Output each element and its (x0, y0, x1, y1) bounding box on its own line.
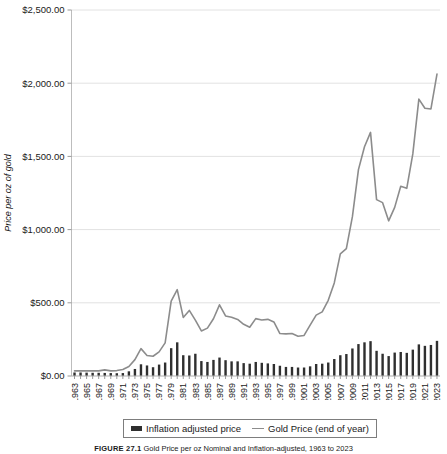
x-tick-label-2011: 2011 (360, 383, 370, 400)
bar-2003 (315, 364, 317, 376)
bar-2004 (321, 364, 323, 376)
bar-1982 (188, 356, 190, 377)
bar-2010 (357, 344, 359, 376)
bar-2012 (369, 341, 371, 376)
y-tick-label-2500: $2,500.00 (22, 4, 64, 15)
gold-price-chart-svg: $0.00$500.00$1,000.00$1,500.00$2,000.00$… (0, 0, 447, 400)
x-tick-label-2015: 2015 (384, 383, 394, 400)
bar-series-group (73, 341, 438, 376)
gridlines-group (72, 10, 441, 376)
x-tick-label-1967: 1967 (94, 383, 104, 400)
x-tick-label-1991: 1991 (239, 383, 249, 400)
bar-1983 (194, 354, 196, 376)
figure-caption-label: FIGURE 27.1 (94, 444, 141, 453)
x-tick-label-2007: 2007 (336, 383, 346, 400)
x-tick-label-2013: 2013 (372, 383, 382, 400)
y-axis-group: $0.00$500.00$1,000.00$1,500.00$2,000.00$… (22, 4, 71, 381)
legend-bar-swatch-icon (131, 426, 142, 431)
bar-1976 (152, 367, 154, 376)
gold-price-line (75, 74, 437, 371)
figure-container: $0.00$500.00$1,000.00$1,500.00$2,000.00$… (0, 0, 447, 454)
bar-1974 (140, 364, 142, 376)
bar-2015 (387, 356, 389, 376)
bar-2014 (381, 354, 383, 376)
x-tick-label-2023: 2023 (432, 383, 442, 400)
bar-2000 (297, 368, 299, 376)
figure-caption: FIGURE 27.1 Gold Price per oz Nominal an… (0, 444, 447, 454)
bar-2018 (406, 353, 408, 376)
bar-1995 (267, 363, 269, 376)
legend-line-swatch-icon (252, 428, 264, 429)
y-tick-label-2000: $2,000.00 (22, 78, 64, 89)
bar-1984 (200, 361, 202, 376)
bar-2023 (436, 341, 438, 376)
bar-1987 (218, 358, 220, 376)
x-tick-label-2019: 2019 (408, 383, 418, 400)
bar-1973 (134, 369, 136, 376)
legend-item-gold-price: Gold Price (end of year) (252, 424, 369, 434)
bar-1972 (128, 371, 130, 376)
bar-2002 (309, 366, 311, 376)
x-tick-label-1981: 1981 (178, 383, 188, 400)
bar-2005 (327, 363, 329, 376)
x-tick-label-1977: 1977 (154, 383, 164, 400)
bar-1989 (230, 361, 232, 376)
y-tick-label-500: $500.00 (30, 297, 64, 308)
bar-2009 (351, 348, 353, 376)
legend-item-inflation-adjusted-price: Inflation adjusted price (131, 424, 241, 434)
legend-label-inflation-adjusted-price: Inflation adjusted price (146, 424, 241, 434)
bar-2019 (412, 350, 414, 376)
bar-2007 (339, 355, 341, 376)
bar-2006 (333, 359, 335, 376)
y-tick-label-1000: $1,000.00 (22, 224, 64, 235)
x-tick-label-2003: 2003 (311, 383, 321, 400)
x-tick-label-1993: 1993 (251, 383, 261, 400)
bar-1990 (236, 361, 238, 376)
bar-2001 (303, 368, 305, 376)
x-tick-label-2001: 2001 (299, 383, 309, 400)
x-tick-label-2017: 2017 (396, 383, 406, 400)
bar-1999 (291, 367, 293, 376)
y-axis-title: Price per oz of gold (3, 153, 13, 232)
bar-2016 (393, 353, 395, 376)
bar-2021 (424, 346, 426, 376)
x-tick-label-1965: 1965 (82, 383, 92, 400)
bar-1985 (206, 362, 208, 376)
x-tick-label-1999: 1999 (287, 383, 297, 400)
bar-1988 (224, 360, 226, 376)
bar-1993 (255, 362, 257, 376)
bar-1981 (182, 355, 184, 376)
bar-1991 (242, 363, 244, 376)
y-tick-label-1500: $1,500.00 (22, 151, 64, 162)
bar-2013 (375, 351, 377, 376)
bar-1998 (285, 367, 287, 376)
bar-1996 (273, 364, 275, 376)
bar-1992 (249, 364, 251, 376)
x-tick-label-2005: 2005 (323, 383, 333, 400)
chart-plot-area: $0.00$500.00$1,000.00$1,500.00$2,000.00$… (0, 0, 447, 400)
x-tick-label-1997: 1997 (275, 383, 285, 400)
x-tick-label-1983: 1983 (191, 383, 201, 400)
chart-legend: Inflation adjusted price Gold Price (end… (123, 419, 377, 438)
bar-1964 (79, 372, 81, 376)
line-series-group (75, 74, 437, 371)
bar-1963 (73, 372, 75, 376)
bar-1994 (261, 363, 263, 376)
figure-caption-text: Gold Price per oz Nominal and Inflation-… (144, 444, 353, 453)
x-tick-label-1995: 1995 (263, 383, 273, 400)
x-tick-label-1979: 1979 (166, 383, 176, 400)
bar-1980 (176, 342, 178, 376)
bar-1965 (85, 373, 87, 376)
bar-1997 (279, 366, 281, 376)
bar-1979 (170, 348, 172, 376)
x-tick-label-1989: 1989 (227, 383, 237, 400)
x-tick-label-1985: 1985 (203, 383, 213, 400)
x-tick-label-2009: 2009 (348, 383, 358, 400)
legend-label-gold-price: Gold Price (end of year) (268, 424, 369, 434)
x-axis-group: 1963196519671969197119731975197719791981… (70, 376, 442, 400)
x-tick-label-1963: 1963 (70, 383, 80, 400)
x-tick-label-1969: 1969 (106, 383, 116, 400)
bar-1986 (212, 360, 214, 376)
bar-2022 (430, 345, 432, 376)
bar-2011 (363, 342, 365, 376)
